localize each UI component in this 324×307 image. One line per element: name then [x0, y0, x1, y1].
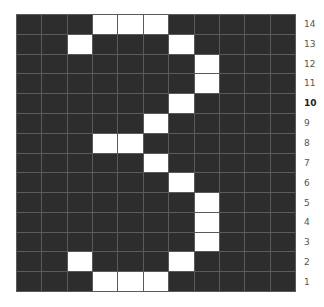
- grid-cell[interactable]: [169, 252, 193, 271]
- grid-cell[interactable]: [195, 94, 219, 113]
- grid-cell[interactable]: [144, 173, 168, 192]
- grid-cell[interactable]: [195, 55, 219, 74]
- grid-cell[interactable]: [144, 35, 168, 54]
- grid-cell[interactable]: [144, 272, 168, 291]
- grid-cell[interactable]: [271, 173, 295, 192]
- grid-cell[interactable]: [93, 15, 117, 34]
- grid-cell[interactable]: [42, 134, 66, 153]
- grid-cell[interactable]: [144, 193, 168, 212]
- grid-cell[interactable]: [195, 173, 219, 192]
- grid-cell[interactable]: [271, 154, 295, 173]
- grid-cell[interactable]: [195, 74, 219, 93]
- grid-cell[interactable]: [118, 114, 142, 133]
- grid-cell[interactable]: [93, 94, 117, 113]
- grid-cell[interactable]: [169, 74, 193, 93]
- grid-cell[interactable]: [68, 15, 92, 34]
- grid-cell[interactable]: [220, 213, 244, 232]
- grid-cell[interactable]: [42, 252, 66, 271]
- grid-cell[interactable]: [220, 173, 244, 192]
- grid-cell[interactable]: [271, 74, 295, 93]
- grid-cell[interactable]: [169, 55, 193, 74]
- grid-cell[interactable]: [245, 15, 269, 34]
- grid-cell[interactable]: [144, 213, 168, 232]
- grid-cell[interactable]: [271, 193, 295, 212]
- grid-cell[interactable]: [42, 35, 66, 54]
- grid-cell[interactable]: [169, 193, 193, 212]
- grid-cell[interactable]: [169, 154, 193, 173]
- grid-cell[interactable]: [17, 193, 41, 212]
- grid-cell[interactable]: [144, 55, 168, 74]
- grid-cell[interactable]: [93, 252, 117, 271]
- grid-cell[interactable]: [220, 35, 244, 54]
- grid-cell[interactable]: [68, 154, 92, 173]
- grid-cell[interactable]: [195, 193, 219, 212]
- grid-cell[interactable]: [220, 272, 244, 291]
- grid-cell[interactable]: [195, 233, 219, 252]
- grid-cell[interactable]: [271, 272, 295, 291]
- grid-cell[interactable]: [93, 154, 117, 173]
- grid-cell[interactable]: [118, 173, 142, 192]
- grid-cell[interactable]: [68, 252, 92, 271]
- grid-cell[interactable]: [17, 213, 41, 232]
- grid-cell[interactable]: [220, 15, 244, 34]
- grid-cell[interactable]: [68, 94, 92, 113]
- grid-cell[interactable]: [220, 55, 244, 74]
- grid-cell[interactable]: [271, 233, 295, 252]
- grid-cell[interactable]: [220, 233, 244, 252]
- grid-cell[interactable]: [245, 272, 269, 291]
- grid-cell[interactable]: [42, 272, 66, 291]
- grid-cell[interactable]: [118, 134, 142, 153]
- grid-cell[interactable]: [17, 94, 41, 113]
- grid-cell[interactable]: [271, 252, 295, 271]
- grid-cell[interactable]: [144, 15, 168, 34]
- grid-cell[interactable]: [17, 35, 41, 54]
- grid-cell[interactable]: [68, 213, 92, 232]
- grid-cell[interactable]: [220, 94, 244, 113]
- grid-cell[interactable]: [68, 134, 92, 153]
- grid-cell[interactable]: [144, 134, 168, 153]
- grid-cell[interactable]: [42, 213, 66, 232]
- grid-cell[interactable]: [245, 114, 269, 133]
- grid-cell[interactable]: [144, 114, 168, 133]
- grid-cell[interactable]: [93, 55, 117, 74]
- grid-cell[interactable]: [220, 193, 244, 212]
- grid-cell[interactable]: [68, 193, 92, 212]
- grid-cell[interactable]: [68, 233, 92, 252]
- grid-cell[interactable]: [245, 134, 269, 153]
- grid-cell[interactable]: [93, 233, 117, 252]
- grid-cell[interactable]: [42, 233, 66, 252]
- grid-cell[interactable]: [93, 173, 117, 192]
- grid-cell[interactable]: [169, 94, 193, 113]
- grid-cell[interactable]: [93, 74, 117, 93]
- grid-cell[interactable]: [169, 35, 193, 54]
- grid-cell[interactable]: [245, 55, 269, 74]
- grid-cell[interactable]: [169, 233, 193, 252]
- grid-cell[interactable]: [245, 74, 269, 93]
- grid-cell[interactable]: [68, 114, 92, 133]
- grid-cell[interactable]: [118, 74, 142, 93]
- grid-cell[interactable]: [93, 35, 117, 54]
- grid-cell[interactable]: [118, 252, 142, 271]
- grid-cell[interactable]: [169, 15, 193, 34]
- grid-cell[interactable]: [93, 134, 117, 153]
- grid-cell[interactable]: [271, 114, 295, 133]
- grid-cell[interactable]: [68, 74, 92, 93]
- grid-cell[interactable]: [220, 154, 244, 173]
- grid-cell[interactable]: [220, 74, 244, 93]
- grid-cell[interactable]: [17, 74, 41, 93]
- grid-cell[interactable]: [169, 272, 193, 291]
- grid-cell[interactable]: [195, 114, 219, 133]
- grid-cell[interactable]: [118, 233, 142, 252]
- grid-cell[interactable]: [271, 55, 295, 74]
- grid-cell[interactable]: [17, 15, 41, 34]
- grid-cell[interactable]: [68, 173, 92, 192]
- grid-cell[interactable]: [169, 173, 193, 192]
- grid-cell[interactable]: [245, 173, 269, 192]
- grid-cell[interactable]: [17, 154, 41, 173]
- grid-cell[interactable]: [17, 114, 41, 133]
- grid-cell[interactable]: [42, 114, 66, 133]
- grid-cell[interactable]: [68, 55, 92, 74]
- grid-cell[interactable]: [17, 55, 41, 74]
- grid-cell[interactable]: [42, 94, 66, 113]
- grid-cell[interactable]: [118, 193, 142, 212]
